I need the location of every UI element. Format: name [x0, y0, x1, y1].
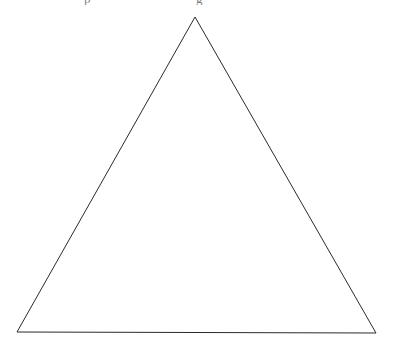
- triangle-figure: [0, 0, 394, 346]
- triangle-outline: [17, 17, 376, 333]
- figure-canvas: p g: [0, 0, 394, 346]
